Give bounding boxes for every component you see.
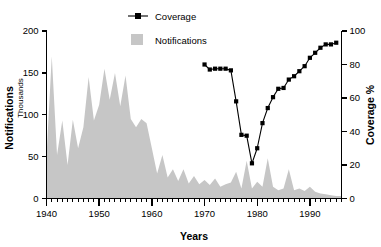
left-tick-label: 0 [33, 193, 38, 204]
coverage-data-point [260, 121, 264, 125]
chart-container: 050100150200 020406080100 19401950196019… [0, 0, 381, 247]
coverage-data-point [266, 106, 270, 110]
coverage-data-point [287, 77, 291, 81]
x-tick-label: 1970 [194, 208, 215, 219]
x-axis-title: Years [180, 230, 208, 242]
x-tick-label: 1960 [141, 208, 162, 219]
coverage-data-point [313, 51, 317, 55]
coverage-data-point [281, 86, 285, 90]
x-tick-label: 1950 [89, 208, 110, 219]
left-tick-label: 50 [28, 151, 39, 162]
right-tick-label: 100 [350, 25, 366, 36]
coverage-data-point [297, 69, 301, 73]
coverage-data-point [224, 67, 228, 71]
coverage-data-point [271, 95, 275, 99]
coverage-data-point [292, 74, 296, 78]
coverage-data-point [234, 99, 238, 103]
x-tick-label: 1980 [247, 208, 268, 219]
coverage-data-point [245, 134, 249, 138]
y-axis-subtitle: Thousands [16, 78, 25, 118]
coverage-data-point [318, 46, 322, 50]
left-tick-label: 100 [23, 109, 39, 120]
coverage-data-point [324, 42, 328, 46]
coverage-data-point [276, 87, 280, 91]
measles-notifications-coverage-chart: 050100150200 020406080100 19401950196019… [0, 0, 381, 247]
legend-notifications-swatch-icon [131, 34, 143, 45]
legend-item-notifications[interactable]: Notifications [131, 34, 207, 46]
coverage-data-point [255, 146, 259, 150]
coverage-data-point [303, 64, 307, 68]
x-tick-label: 1990 [299, 208, 320, 219]
coverage-data-point [213, 67, 217, 71]
coverage-data-point [308, 56, 312, 60]
left-tick-label: 200 [23, 25, 39, 36]
coverage-data-point [229, 68, 233, 72]
coverage-data-point [250, 161, 254, 165]
y2-axis-title: Coverage % [364, 84, 376, 145]
right-tick-label: 0 [350, 193, 355, 204]
coverage-data-point [202, 62, 206, 66]
coverage-data-point [239, 133, 243, 137]
legend-label-coverage: Coverage [155, 11, 196, 22]
y-axis-title: Notifications [3, 86, 15, 150]
coverage-data-point [208, 67, 212, 71]
right-tick-label: 40 [350, 126, 361, 137]
right-tick-label: 60 [350, 92, 361, 103]
coverage-data-point [329, 42, 333, 46]
coverage-data-point [218, 67, 222, 71]
x-tick-label: 1940 [36, 208, 57, 219]
legend-coverage-marker-icon [135, 13, 141, 19]
right-tick-label: 20 [350, 159, 361, 170]
legend-label-notifications: Notifications [155, 35, 207, 46]
left-tick-label: 150 [23, 67, 39, 78]
right-tick-label: 80 [350, 59, 361, 70]
coverage-data-point [334, 41, 338, 45]
